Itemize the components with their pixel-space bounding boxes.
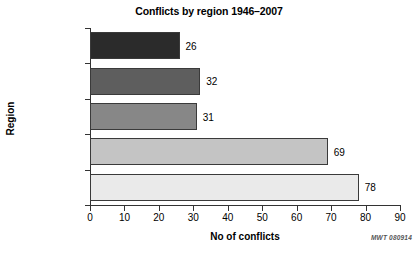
x-tick (366, 206, 367, 211)
y-axis-title: Region (5, 92, 16, 146)
x-axis-line (90, 205, 401, 206)
x-tick (262, 206, 263, 211)
y-tick (85, 134, 90, 135)
x-tick (228, 206, 229, 211)
x-tick (90, 206, 91, 211)
bar-africa[interactable] (90, 174, 359, 201)
watermark-label: MWT 080914 (371, 234, 412, 241)
chart-title: Conflicts by region 1946–2007 (0, 5, 418, 17)
bar-europe[interactable] (90, 68, 200, 95)
y-tick (85, 99, 90, 100)
bar-row: 69 (90, 138, 400, 165)
x-axis-title: No of conflicts (90, 231, 400, 242)
bar-middle-east[interactable] (90, 103, 197, 130)
x-tick (400, 206, 401, 211)
x-tick (331, 206, 332, 211)
bar-row: 78 (90, 174, 400, 201)
plot-area: 2632316978 (90, 28, 400, 205)
x-tick (297, 206, 298, 211)
y-tick (85, 28, 90, 29)
bar-row: 26 (90, 32, 400, 59)
bar-value-label: 78 (365, 182, 376, 193)
bar-value-label: 69 (334, 146, 345, 157)
bar-value-label: 31 (203, 111, 214, 122)
y-tick (85, 63, 90, 64)
x-tick-label: 90 (380, 212, 418, 223)
bar-americas[interactable] (90, 32, 180, 59)
bar-row: 32 (90, 68, 400, 95)
bar-row: 31 (90, 103, 400, 130)
x-tick (124, 206, 125, 211)
bar-value-label: 32 (206, 76, 217, 87)
bar-chart: Conflicts by region 1946–2007 Region No … (0, 0, 418, 257)
bar-asia[interactable] (90, 138, 328, 165)
y-tick (85, 170, 90, 171)
bar-value-label: 26 (186, 40, 197, 51)
x-tick (159, 206, 160, 211)
x-tick (193, 206, 194, 211)
